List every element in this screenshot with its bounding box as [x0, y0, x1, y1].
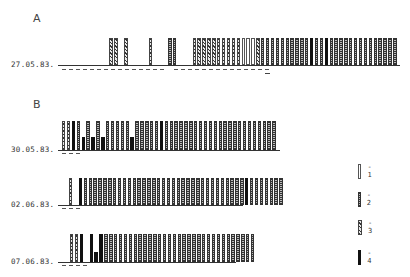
bar-type-2 [178, 234, 181, 262]
bar-type-2 [172, 178, 175, 205]
bar-type-1 [242, 38, 245, 65]
dash-mark [76, 208, 80, 209]
bar-type-4 [90, 234, 93, 262]
date-label: 30.05.83. [11, 145, 54, 154]
bar-type-2 [126, 121, 129, 150]
bar-type-2 [216, 178, 219, 205]
dash-mark [111, 69, 115, 70]
dash-mark [69, 153, 73, 154]
date-label: 02.06.83. [11, 200, 54, 209]
open-bar-swatch-icon [358, 164, 361, 179]
dash-mark [146, 69, 150, 70]
bar-type-2 [167, 178, 170, 205]
bar-type-2 [155, 121, 158, 150]
hatched-bar-swatch-icon [358, 220, 362, 235]
bar-type-3 [217, 38, 220, 65]
bar-type-3 [202, 38, 205, 65]
dash-mark [251, 69, 255, 70]
bar-type-2 [219, 121, 222, 150]
bar-type-2 [177, 178, 180, 205]
bar-type-2 [349, 38, 352, 65]
bar-type-3 [232, 38, 235, 65]
bar-type-2 [279, 178, 282, 205]
dash-mark [132, 69, 136, 70]
legend-item-2: - 2 [358, 191, 372, 207]
dash-mark [244, 69, 248, 70]
bar-type-2 [263, 121, 266, 150]
bar-type-3 [149, 38, 152, 65]
legend-item-4: - 4 [358, 249, 374, 265]
bar-type-1 [251, 38, 254, 65]
dash-mark [83, 69, 87, 70]
bar-type-4 [72, 121, 75, 150]
bar-type-2 [134, 234, 137, 262]
bar-type-2 [109, 234, 112, 262]
bar-type-2 [243, 121, 246, 150]
bar-type-2 [251, 234, 254, 262]
bar-type-2 [255, 178, 258, 205]
panel-b-letter: B [33, 98, 41, 111]
bar-type-2 [305, 38, 308, 65]
bar-type-2 [196, 178, 199, 205]
bar-type-4 [80, 234, 83, 262]
bar-type-2 [209, 121, 212, 150]
bar-type-2 [133, 178, 136, 205]
bar-type-2 [153, 234, 156, 262]
dash-mark [76, 69, 80, 70]
bar-type-2 [246, 234, 249, 262]
dash-marks [62, 153, 83, 154]
legend-label: - 1 [367, 163, 373, 179]
bar-type-2 [192, 234, 195, 262]
bar-type-2 [214, 121, 217, 150]
bar-type-2 [199, 121, 202, 150]
bar-type-2 [89, 178, 92, 205]
bar-type-3 [62, 121, 65, 150]
bar-type-2 [202, 234, 205, 262]
bar-type-2 [113, 178, 116, 205]
bar-type-2 [184, 121, 187, 150]
bar-type-2 [207, 234, 210, 262]
bar-type-2 [189, 121, 192, 150]
bar-type-2 [286, 38, 289, 65]
bar-type-3 [197, 38, 200, 65]
bar-type-2 [121, 121, 124, 150]
bar-type-2 [206, 178, 209, 205]
legend-item-1: - 1 [358, 163, 373, 179]
dash-mark [97, 69, 101, 70]
bar-type-2 [111, 121, 114, 150]
dash-mark [230, 69, 234, 70]
bar-type-2 [359, 38, 362, 65]
dash-marks [62, 208, 83, 209]
dash-mark [90, 69, 94, 70]
bar-type-3 [124, 38, 127, 65]
bar-type-2 [261, 38, 264, 65]
bar-series [70, 234, 256, 262]
bar-type-2 [276, 38, 279, 65]
baseline [58, 150, 280, 151]
dash-marks [62, 265, 90, 266]
dash-mark [216, 69, 220, 70]
dash-mark [62, 265, 66, 266]
dash-mark [104, 69, 108, 70]
bar-type-2 [272, 121, 275, 150]
dash-mark [223, 69, 227, 70]
bar-type-2 [339, 38, 342, 65]
dash-mark [195, 69, 199, 70]
bar-type-3 [256, 38, 259, 65]
bar-type-2 [152, 178, 155, 205]
dash-mark [209, 69, 213, 70]
bar-type-2 [150, 121, 153, 150]
bar-type-1 [246, 38, 249, 65]
bar-type-2 [281, 38, 284, 65]
bar-type-2 [217, 234, 220, 262]
bar-type-2 [114, 234, 117, 262]
dash-mark [153, 69, 157, 70]
bar-type-3 [69, 178, 72, 205]
bar-type-2 [168, 234, 171, 262]
bar-type-2 [260, 178, 263, 205]
bar-type-2 [374, 38, 377, 65]
baseline [58, 205, 243, 206]
bar-type-2 [98, 178, 101, 205]
bar-type-2 [174, 121, 177, 150]
dash-mark [62, 153, 66, 154]
